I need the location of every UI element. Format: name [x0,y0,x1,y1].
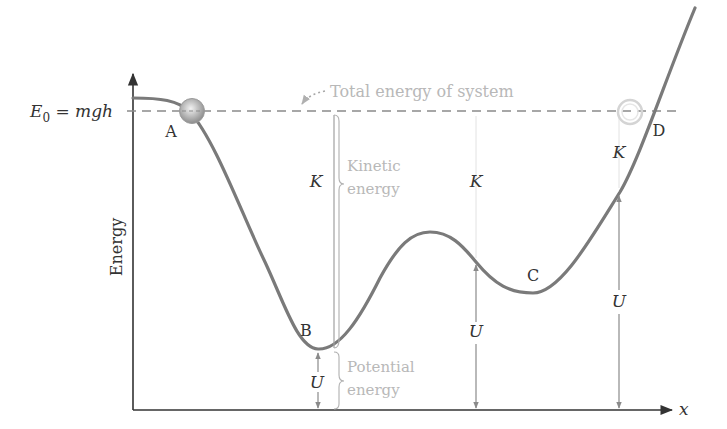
potential-symbols: U U U [310,291,627,392]
x-axis-label: x [679,399,689,419]
potential-energy-bracket: Potential energy [318,352,415,409]
ball-icon [180,99,205,124]
potential-energy-label: Potential [347,358,415,376]
total-energy-label: E0 = mgh [29,101,113,125]
potential-symbol-right: U [612,291,627,311]
kinetic-symbol-right: K [612,142,627,162]
point-labels: A B C D [164,121,665,340]
kinetic-energy-label: Kinetic [347,157,401,175]
potential-energy-curve [133,8,695,349]
kinetic-symbol-mid: K [469,171,484,191]
kinetic-energy-label-2: energy [347,180,400,198]
point-a-label: A [164,122,177,141]
potential-energy-label-2: energy [347,381,400,399]
pointer-arrow-icon [302,91,325,104]
total-energy-annotation: Total energy of system [330,82,514,101]
potential-symbol-b: U [310,372,325,392]
potential-energy-diagram: Energy x E0 = mgh Total energy of system… [0,0,727,429]
total-energy-line: E0 = mgh Total energy of system [29,82,682,125]
point-c-label: C [527,266,539,285]
point-b-label: B [300,321,312,340]
ghost-ball-icon [618,100,642,124]
kinetic-energy-bracket: Kinetic energy [334,115,401,348]
kinetic-symbol-b: K [309,171,324,191]
point-d-label: D [653,121,666,140]
potential-symbol-mid: U [469,321,484,341]
y-axis-label: Energy [107,218,126,276]
